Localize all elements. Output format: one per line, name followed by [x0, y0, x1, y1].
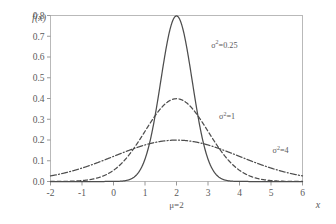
y-tick-label: 0.2 — [33, 135, 45, 145]
x-tick-label: 0 — [111, 188, 116, 198]
y-tick-label: 0.3 — [33, 115, 45, 125]
curve-label-value: =4 — [280, 146, 289, 155]
y-axis-tick-labels: 0.00.10.20.30.40.50.60.70.8 — [33, 11, 45, 187]
normal-distribution-chart: 0.00.10.20.30.40.50.60.70.8 -2-10123456 … — [0, 0, 336, 224]
x-tick-label: 1 — [143, 188, 148, 198]
curve-label-value: =1 — [226, 112, 235, 121]
x-axis-title: x — [315, 199, 321, 210]
y-tick-label: 0.5 — [33, 73, 45, 83]
x-tick-label: 4 — [237, 188, 242, 198]
curve-label: σ2=0.25 — [211, 39, 237, 49]
x-tick-label: 3 — [206, 188, 211, 198]
x-tick-label: -1 — [78, 188, 86, 198]
curve-label-value: =0.25 — [219, 41, 238, 50]
y-tick-label: 0.6 — [33, 52, 45, 62]
y-tick-label: 0.4 — [33, 94, 45, 104]
x-tick-label: 5 — [269, 188, 274, 198]
mean-annotation: μ=2 — [169, 200, 183, 210]
y-tick-label: 0.1 — [33, 156, 45, 166]
curve-label: σ2=4 — [273, 145, 289, 155]
curve-label: σ2=1 — [219, 111, 235, 121]
x-tick-label: -2 — [47, 188, 55, 198]
chart-canvas: 0.00.10.20.30.40.50.60.70.8 -2-10123456 … — [0, 0, 336, 224]
y-axis-title: f(x) — [32, 12, 47, 24]
x-tick-label: 6 — [300, 188, 305, 198]
y-tick-label: 0.0 — [33, 177, 45, 187]
x-tick-label: 2 — [174, 188, 179, 198]
y-tick-label: 0.7 — [33, 32, 45, 42]
